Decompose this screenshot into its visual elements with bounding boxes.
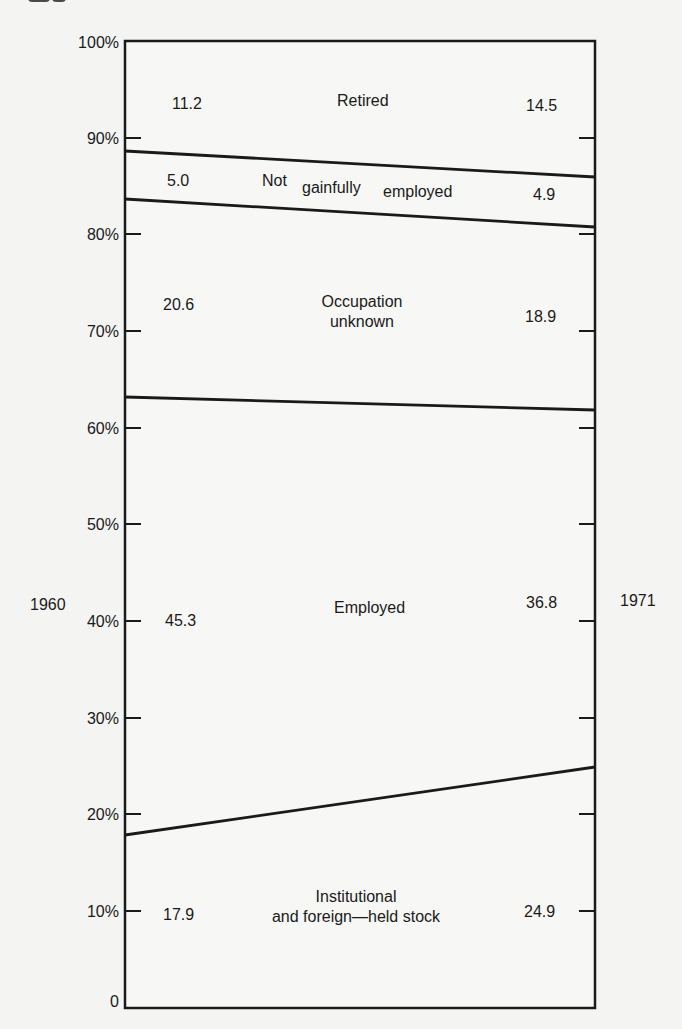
retired-label: Retired [337, 92, 389, 109]
inst-value-1971: 24.9 [524, 903, 555, 920]
y-tick-40: 40% [87, 613, 119, 630]
y-axis-labels: 0 10% 20% 30% 40% 50% 60% 70% 80% 90% 10… [78, 34, 119, 1010]
inst-value-1960: 17.9 [163, 906, 194, 923]
occ-value-1971: 18.9 [525, 308, 556, 325]
emp-value-1960: 45.3 [165, 612, 196, 629]
y-tick-100: 100% [78, 34, 119, 51]
chart-page: 0 10% 20% 30% 40% 50% 60% 70% 80% 90% 10… [0, 0, 682, 1029]
emp-value-1971: 36.8 [526, 594, 557, 611]
retired-value-1960: 11.2 [172, 95, 202, 112]
inst-label-line1: Institutional [316, 888, 397, 905]
y-tick-80: 80% [87, 226, 119, 243]
nge-value-1960: 5.0 [167, 172, 189, 189]
year-label-1971: 1971 [620, 592, 656, 609]
year-label-1960: 1960 [30, 596, 66, 613]
nge-label-word2: gainfully [302, 179, 361, 196]
emp-label: Employed [334, 599, 405, 616]
y-tick-0: 0 [110, 993, 119, 1010]
stacked-share-chart: 0 10% 20% 30% 40% 50% 60% 70% 80% 90% 10… [0, 0, 682, 1029]
nge-label-word1: Not [262, 172, 287, 189]
nge-value-1971: 4.9 [533, 186, 555, 203]
inst-label-line2: and foreign—held stock [272, 908, 441, 925]
y-tick-60: 60% [87, 420, 119, 437]
retired-value-1971: 14.5 [526, 97, 557, 114]
y-tick-20: 20% [87, 806, 119, 823]
cutoff-text-fragment [28, 0, 50, 2]
y-tick-90: 90% [87, 130, 119, 147]
y-tick-30: 30% [87, 710, 119, 727]
y-tick-10: 10% [87, 903, 119, 920]
y-tick-70: 70% [87, 323, 119, 340]
nge-label-word3: employed [383, 183, 452, 200]
occ-label-line2: unknown [330, 313, 394, 330]
y-tick-50: 50% [87, 516, 119, 533]
occ-label-line1: Occupation [322, 293, 403, 310]
occ-value-1960: 20.6 [163, 296, 194, 313]
